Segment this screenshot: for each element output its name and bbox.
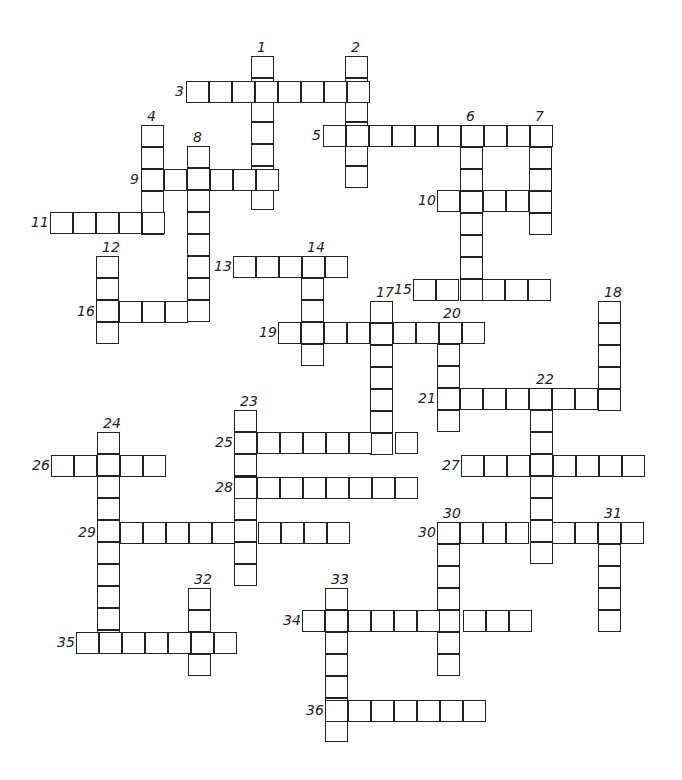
- crossword-cell[interactable]: [99, 632, 122, 654]
- crossword-cell[interactable]: [187, 256, 210, 278]
- crossword-cell[interactable]: [214, 632, 237, 654]
- crossword-cell[interactable]: [187, 190, 210, 212]
- crossword-cell[interactable]: [461, 455, 484, 477]
- crossword-cell[interactable]: [188, 588, 211, 610]
- crossword-cell[interactable]: [348, 700, 371, 722]
- crossword-cell[interactable]: [345, 144, 368, 166]
- crossword-cell[interactable]: [168, 632, 191, 654]
- crossword-cell[interactable]: [598, 544, 621, 566]
- crossword-cell[interactable]: [324, 81, 347, 103]
- crossword-cell[interactable]: [598, 367, 621, 389]
- crossword-cell[interactable]: [210, 169, 233, 191]
- crossword-cell[interactable]: [622, 455, 645, 477]
- crossword-cell[interactable]: [97, 564, 120, 586]
- crossword-cell[interactable]: [251, 100, 274, 122]
- crossword-cell[interactable]: [437, 654, 460, 676]
- crossword-cell[interactable]: [372, 477, 395, 499]
- crossword-cell[interactable]: [370, 433, 393, 455]
- crossword-cell[interactable]: [325, 588, 348, 610]
- crossword-cell[interactable]: [145, 632, 168, 654]
- crossword-cell[interactable]: [301, 278, 324, 300]
- crossword-cell[interactable]: [325, 632, 348, 654]
- crossword-cell[interactable]: [460, 235, 483, 257]
- crossword-cell[interactable]: [187, 278, 210, 300]
- crossword-cell[interactable]: [599, 455, 622, 477]
- crossword-cell[interactable]: [463, 700, 486, 722]
- crossword-cell[interactable]: [460, 388, 483, 410]
- crossword-cell[interactable]: [97, 542, 120, 564]
- crossword-cell[interactable]: [191, 632, 214, 654]
- crossword-cell[interactable]: [97, 476, 120, 498]
- crossword-cell[interactable]: [278, 322, 301, 344]
- crossword-cell[interactable]: [258, 522, 281, 544]
- crossword-cell[interactable]: [530, 520, 553, 542]
- crossword-cell[interactable]: [324, 322, 347, 344]
- crossword-cell[interactable]: [437, 632, 460, 654]
- crossword-cell[interactable]: [188, 654, 211, 676]
- crossword-cell[interactable]: [97, 586, 120, 608]
- crossword-cell[interactable]: [278, 81, 301, 103]
- crossword-cell[interactable]: [280, 432, 303, 454]
- crossword-cell[interactable]: [234, 542, 257, 564]
- crossword-cell[interactable]: [97, 520, 120, 542]
- crossword-cell[interactable]: [165, 301, 188, 323]
- crossword-cell[interactable]: [256, 256, 279, 278]
- crossword-cell[interactable]: [483, 522, 506, 544]
- crossword-cell[interactable]: [97, 608, 120, 630]
- crossword-cell[interactable]: [575, 388, 598, 410]
- crossword-cell[interactable]: [598, 566, 621, 588]
- crossword-cell[interactable]: [96, 300, 119, 322]
- crossword-cell[interactable]: [164, 169, 187, 191]
- crossword-cell[interactable]: [506, 522, 529, 544]
- crossword-cell[interactable]: [530, 476, 553, 498]
- crossword-cell[interactable]: [97, 498, 120, 520]
- crossword-cell[interactable]: [530, 432, 553, 454]
- crossword-cell[interactable]: [530, 542, 553, 564]
- crossword-cell[interactable]: [415, 125, 438, 147]
- crossword-cell[interactable]: [303, 477, 326, 499]
- crossword-cell[interactable]: [463, 610, 486, 632]
- crossword-cell[interactable]: [437, 344, 460, 366]
- crossword-cell[interactable]: [96, 212, 119, 234]
- crossword-cell[interactable]: [281, 522, 304, 544]
- crossword-cell[interactable]: [529, 169, 552, 191]
- crossword-cell[interactable]: [416, 322, 439, 344]
- crossword-cell[interactable]: [346, 125, 369, 147]
- crossword-cell[interactable]: [371, 610, 394, 632]
- crossword-cell[interactable]: [370, 323, 393, 345]
- crossword-cell[interactable]: [460, 147, 483, 169]
- crossword-cell[interactable]: [188, 610, 211, 632]
- crossword-cell[interactable]: [482, 279, 505, 301]
- crossword-cell[interactable]: [120, 455, 143, 477]
- crossword-cell[interactable]: [506, 388, 529, 410]
- crossword-cell[interactable]: [232, 81, 255, 103]
- crossword-cell[interactable]: [395, 477, 418, 499]
- crossword-cell[interactable]: [97, 432, 120, 454]
- crossword-cell[interactable]: [141, 147, 164, 169]
- crossword-cell[interactable]: [187, 146, 210, 168]
- crossword-cell[interactable]: [437, 522, 460, 544]
- crossword-cell[interactable]: [413, 279, 436, 301]
- crossword-cell[interactable]: [325, 256, 348, 278]
- crossword-cell[interactable]: [209, 81, 232, 103]
- crossword-cell[interactable]: [529, 147, 552, 169]
- crossword-cell[interactable]: [234, 432, 257, 454]
- crossword-cell[interactable]: [212, 522, 235, 544]
- crossword-cell[interactable]: [437, 410, 460, 432]
- crossword-cell[interactable]: [347, 81, 370, 103]
- crossword-cell[interactable]: [327, 522, 350, 544]
- crossword-cell[interactable]: [460, 191, 483, 213]
- crossword-cell[interactable]: [553, 455, 576, 477]
- crossword-cell[interactable]: [370, 301, 393, 323]
- crossword-cell[interactable]: [506, 190, 529, 212]
- crossword-cell[interactable]: [439, 322, 462, 344]
- crossword-cell[interactable]: [438, 125, 461, 147]
- crossword-cell[interactable]: [345, 166, 368, 188]
- crossword-cell[interactable]: [462, 322, 485, 344]
- crossword-cell[interactable]: [96, 278, 119, 300]
- crossword-cell[interactable]: [304, 522, 327, 544]
- crossword-cell[interactable]: [437, 190, 460, 212]
- crossword-cell[interactable]: [141, 191, 164, 213]
- crossword-cell[interactable]: [141, 125, 164, 147]
- crossword-cell[interactable]: [255, 81, 278, 103]
